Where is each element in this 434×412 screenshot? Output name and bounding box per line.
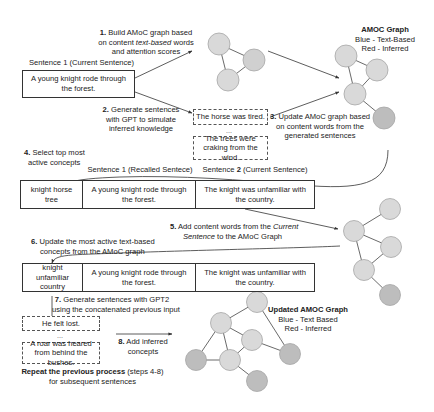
sentence1-label: Sentence 1 (Current Sentence) <box>29 58 134 68</box>
generated-sentence-box: The horse was tired. <box>193 109 268 125</box>
cell-text: The knight was unfamiliar with the count… <box>199 185 311 204</box>
step1-label: 1. Build AMoC graph based on content tex… <box>96 28 196 57</box>
table1-header-recalled: Sentence 1 (Recalled Sentece) <box>85 165 195 175</box>
cell-text: The knight was unfamiliar with the count… <box>199 268 311 287</box>
sentence1-text: A young knight rode through the forest. <box>27 74 130 93</box>
step-text: on content words from the <box>270 122 370 132</box>
step5-label: 5. Add content words from the Current Se… <box>170 222 295 241</box>
current-sentence-cell: The knight was unfamiliar with the count… <box>196 264 314 291</box>
cell-text: knight horse tree <box>24 185 79 204</box>
step5-graph-nodes <box>344 199 402 306</box>
concepts-cell: knight horse tree <box>21 181 83 208</box>
generated-sentence-text: A roar was heared from behind the bushes… <box>24 339 98 368</box>
step2-label: 2. Generate sentences with GPT to simula… <box>96 105 186 134</box>
step-text: Build AMoC graph based <box>108 28 192 37</box>
generated-sentence-text: The horse was tired. <box>196 112 265 122</box>
step-text: inferred knowledge <box>96 124 186 134</box>
step-text: Add content words from the <box>178 222 273 231</box>
step-text: Add inferred <box>126 337 167 346</box>
current-sentence-cell: The knight was unfamiliar with the count… <box>196 181 314 208</box>
step3-label: 3. Update AMoC graph based on content wo… <box>270 112 370 141</box>
step-text: to the AMoC Graph <box>215 232 282 241</box>
step-text-italic: Current <box>273 222 298 231</box>
step-text: active concepts <box>24 158 85 168</box>
cell-text: knight unfamiliar country <box>26 263 79 292</box>
step-text-italic: text-based <box>136 38 171 47</box>
step-number: 2. <box>103 105 109 114</box>
legend-text-based: Blue - Text-Based <box>350 35 420 45</box>
header-text: (Current Sentence) <box>241 165 308 174</box>
concepts-cell: knight unfamiliar country <box>23 264 83 291</box>
step-text: Generate sentences with GPT2 <box>63 295 169 304</box>
repeat-steps-text: (steps 4-8) <box>125 367 163 376</box>
step-text: with GPT to simulate <box>96 115 186 125</box>
label-text: Sentence <box>29 58 63 67</box>
step-text: Update AMoC graph based <box>278 112 370 121</box>
amoc-graph-legend: AMOC Graph Blue - Text-Based Red - Infer… <box>350 25 420 54</box>
step-number: 1. <box>100 28 106 37</box>
input-row-1: knight horse tree A young knight rode th… <box>20 180 315 209</box>
step8-label: 8. Add inferred concepts <box>113 337 173 356</box>
step-number: 7. <box>55 295 61 304</box>
step6-label: 6. Update the most active text-based con… <box>31 237 155 256</box>
step-text: Update the most active text-based <box>39 237 154 246</box>
step-text: concepts <box>113 347 173 357</box>
recalled-sentence-cell: A young knight rode through the forest. <box>83 264 196 291</box>
generated-sentence-box: A roar was heared from behind the bushes… <box>22 342 100 364</box>
generated-sentence-box: The trees were craking from the wind. <box>193 136 268 160</box>
repeat-bold-text: Repeat the previous process <box>21 367 125 376</box>
generated-sentence-text: The trees were craking from the wind. <box>196 134 265 163</box>
graph-title: Updated AMOC Graph <box>268 305 348 315</box>
legend-text-based: Blue - Text Based <box>268 315 348 325</box>
step4-label: 4. Select top most active concepts <box>24 148 85 167</box>
step-text: Select top most <box>32 148 84 157</box>
cell-text: A young knight rode through the forest. <box>86 268 192 287</box>
step-text: generated sentences <box>270 131 370 141</box>
arrow-graph-to-amoc <box>268 51 339 78</box>
step-text: on content <box>98 38 136 47</box>
input-row-2: knight unfamiliar country A young knight… <box>22 263 315 292</box>
step-number: 8. <box>118 337 124 346</box>
generated-sentence-text: He felt lost. <box>42 319 80 329</box>
repeat-text: for subsequent sentences <box>20 377 165 387</box>
step-text: Generate sentences <box>111 105 179 114</box>
step-text: and attention scores <box>96 47 196 57</box>
cell-text: A young knight rode through the forest. <box>86 185 192 204</box>
repeat-note: Repeat the previous process (steps 4-8) … <box>20 367 165 386</box>
sentence1-box: A young knight rode through the forest. <box>22 70 135 98</box>
step7-label: 7. Generate sentences with GPT2 using th… <box>52 295 172 314</box>
header-text: Sentence <box>202 165 236 174</box>
header-text: Sentence <box>87 165 121 174</box>
step-number: 6. <box>31 237 37 246</box>
graph-title: AMOC Graph <box>350 25 420 35</box>
initial-graph-nodes <box>208 33 265 91</box>
final-graph-legend: Updated AMOC Graph Blue - Text Based Red… <box>268 305 348 334</box>
header-text: (Recalled Sentece) <box>126 165 193 174</box>
step-text: concepts from the AMoC graph <box>31 247 155 257</box>
step-text: words <box>171 38 193 47</box>
recalled-sentence-cell: A young knight rode through the forest. <box>83 181 196 208</box>
legend-inferred: Red - Inferred <box>350 44 420 54</box>
generated-sentence-box: He felt lost. <box>22 316 100 331</box>
step-number: 4. <box>24 148 30 157</box>
step-text-italic: Sentence <box>183 232 215 241</box>
step-text: using the concatenated previous input <box>52 305 172 315</box>
label-text: (Current Sentence) <box>67 58 134 67</box>
legend-inferred: Red - Inferred <box>268 324 348 334</box>
table1-header-current: Sentence 2 (Current Sentence) <box>197 165 313 175</box>
step-number: 3. <box>270 112 276 121</box>
step-number: 5. <box>170 222 176 231</box>
